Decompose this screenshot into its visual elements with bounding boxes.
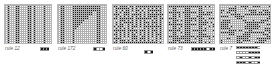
ca-grid-rule-60	[112, 4, 164, 44]
caption-rule-12: rule 12	[5, 46, 20, 52]
legend-swatch-rule-60	[144, 50, 153, 54]
ca-grid-rule-12	[4, 4, 52, 44]
ca-figure: rule 12 rule 172 rule 60 rule 73 rule 7	[0, 0, 275, 68]
caption-rule-60: rule 60	[113, 46, 128, 52]
ca-grid-rule-7	[219, 4, 271, 44]
ca-grid-rule-73	[167, 4, 215, 44]
caption-rule-73: rule 73	[168, 46, 183, 52]
legend-block-rule-7	[236, 46, 260, 66]
legend-swatch-rule-12	[40, 47, 49, 51]
legend-swatch-rule-172	[93, 47, 105, 51]
caption-rule-7: rule 7	[220, 46, 232, 52]
caption-rule-172: rule 172	[58, 46, 75, 52]
ca-grid-rule-172	[57, 4, 107, 44]
legend-swatch-rule-73	[191, 47, 215, 51]
